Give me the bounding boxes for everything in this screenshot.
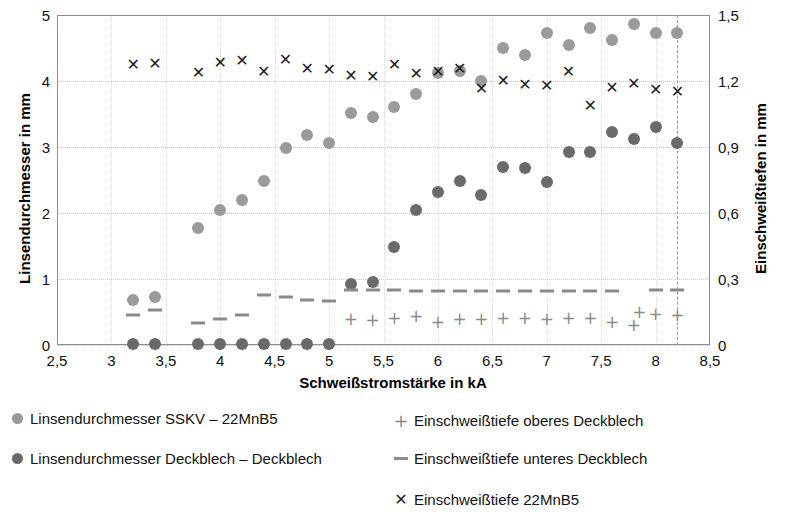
data-point-dash (431, 289, 445, 292)
data-point-dash (257, 293, 271, 296)
data-point-x: ✕ (148, 56, 161, 72)
y-tick-label-right: 0,3 (718, 271, 762, 288)
legend-item-label: Linsendurchmesser Deckblech – Deckblech (30, 450, 322, 467)
y-tick-label-left: 2 (10, 205, 50, 222)
data-point-circle (367, 111, 379, 123)
legend-item[interactable]: Einschweißtiefe unteres Deckblech (388, 450, 647, 467)
legend-symbol-dash (388, 457, 414, 460)
legend-item-label: Einschweißtiefe oberes Deckblech (414, 412, 643, 429)
data-point-x: ✕ (605, 80, 618, 96)
data-point-circle (149, 338, 161, 350)
y-tick-label-left: 1 (10, 271, 50, 288)
data-point-x: ✕ (540, 78, 553, 94)
data-point-circle (584, 22, 596, 34)
x-tick-label: 5,5 (373, 352, 394, 369)
data-point-dash (496, 289, 510, 292)
data-point-plus: + (518, 310, 532, 327)
data-point-plus: + (431, 314, 445, 331)
data-point-circle (367, 276, 379, 288)
data-point-dash (366, 288, 380, 291)
data-point-plus: + (561, 309, 575, 326)
y-tick-label-right: 0,6 (718, 205, 762, 222)
x-tick-label: 3 (107, 352, 115, 369)
legend-item[interactable]: Linsendurchmesser Deckblech – Deckblech (4, 450, 322, 467)
data-point-circle (236, 338, 248, 350)
data-point-dash (279, 295, 293, 298)
legend-item[interactable]: Linsendurchmesser SSKV – 22MnB5 (4, 410, 278, 427)
legend-circle-icon (12, 453, 23, 464)
data-point-x: ✕ (497, 73, 510, 89)
data-point-dash (540, 289, 554, 292)
y-tick-label-left: 0 (10, 337, 50, 354)
data-point-dash (191, 322, 205, 325)
x-tick-label: 6 (434, 352, 442, 369)
data-point-x: ✕ (235, 53, 248, 69)
data-point-circle (280, 142, 292, 154)
gridline-vertical (166, 15, 167, 345)
data-point-circle (410, 204, 422, 216)
data-point-circle (192, 338, 204, 350)
data-point-plus: + (365, 312, 379, 329)
data-point-plus: + (496, 309, 510, 326)
data-point-x: ✕ (409, 66, 422, 82)
y-tick-label-right: 0 (718, 337, 762, 354)
y-tick-label-left: 3 (10, 139, 50, 156)
data-point-plus: + (474, 311, 488, 328)
legend-item[interactable]: +Einschweißtiefe oberes Deckblech (388, 410, 643, 431)
data-point-circle (454, 175, 466, 187)
data-point-circle (519, 162, 531, 174)
x-tick-label: 8 (651, 352, 659, 369)
data-point-x: ✕ (344, 68, 357, 84)
data-point-x: ✕ (518, 77, 531, 93)
y-tick-label-left: 5 (10, 7, 50, 24)
x-tick-label: 6,5 (482, 352, 503, 369)
data-point-x: ✕ (627, 76, 640, 92)
data-point-x: ✕ (453, 61, 466, 77)
legend-dash-icon (394, 457, 408, 460)
y-axis-line-left (57, 15, 58, 345)
data-point-plus: + (648, 306, 662, 323)
data-point-plus: + (670, 307, 684, 324)
legend-item-label: Einschweißtiefe 22MnB5 (414, 491, 579, 508)
data-point-circle (127, 294, 139, 306)
data-point-dash (670, 289, 684, 292)
x-axis-title: Schweißstromstärke in kA (0, 374, 786, 391)
data-point-circle (650, 121, 662, 133)
data-point-circle (127, 338, 139, 350)
data-point-x: ✕ (214, 55, 227, 71)
data-point-circle (410, 88, 422, 100)
data-point-dash (300, 298, 314, 301)
y-tick-label-right: 1,5 (718, 7, 762, 24)
data-point-circle (345, 107, 357, 119)
legend-circle-icon (12, 413, 23, 424)
data-point-circle (214, 338, 226, 350)
data-point-plus: + (540, 311, 554, 328)
data-point-circle (301, 338, 313, 350)
data-point-circle (323, 137, 335, 149)
data-point-circle (628, 18, 640, 30)
chart-figure: Linsendurchmesser in mm Einschweißtiefen… (0, 0, 786, 514)
data-point-dash (518, 289, 532, 292)
data-point-circle (192, 222, 204, 234)
data-point-plus: + (344, 311, 358, 328)
x-tick-label: 4 (216, 352, 224, 369)
legend-x-icon: ✕ (388, 490, 414, 509)
data-point-plus: + (387, 310, 401, 327)
data-point-dash (148, 309, 162, 312)
data-point-x: ✕ (279, 52, 292, 68)
data-point-x: ✕ (671, 84, 684, 100)
legend-item[interactable]: ✕Einschweißtiefe 22MnB5 (388, 490, 579, 509)
data-point-dash (453, 289, 467, 292)
data-point-circle (519, 49, 531, 61)
x-tick-label: 2,5 (47, 352, 68, 369)
data-point-circle (323, 338, 335, 350)
data-point-dash (562, 289, 576, 292)
data-point-x: ✕ (475, 81, 488, 97)
data-point-plus: + (409, 307, 423, 324)
legend-symbol-circle (4, 453, 30, 464)
data-point-circle (606, 126, 618, 138)
data-point-dash (583, 289, 597, 292)
legend-item-label: Linsendurchmesser SSKV – 22MnB5 (30, 410, 278, 427)
data-point-circle (432, 186, 444, 198)
data-point-circle (280, 338, 292, 350)
